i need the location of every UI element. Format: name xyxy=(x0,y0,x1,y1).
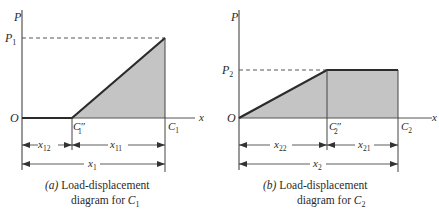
caption-a-line1: (a) Load-displacement xyxy=(45,179,150,192)
point-end-label-b: C2 xyxy=(401,120,412,135)
axis-x-label-b: x xyxy=(431,111,437,123)
load-label-a: P1 xyxy=(4,31,16,47)
point-mid-label-a: C″1 xyxy=(73,120,85,136)
origin-label-a: O xyxy=(10,111,19,125)
dim-total-label-b: x2 xyxy=(312,157,322,172)
dim-right-label-a: x11 xyxy=(109,138,122,153)
axis-y-label-b: P xyxy=(230,10,239,24)
point-mid-label-b: C″2 xyxy=(329,120,341,136)
origin-label-b: O xyxy=(227,111,236,125)
axis-x-label-a: x xyxy=(198,111,204,123)
axis-y-label-a: P xyxy=(13,10,22,24)
load-label-b: P2 xyxy=(221,63,233,79)
diagram-b: P P2 O x C″2 C2 x22 x21 x2 (b) Load-disp… xyxy=(221,10,437,209)
dim-right-label-b: x21 xyxy=(357,138,371,153)
caption-b-line1: (b) Load-displacement xyxy=(263,179,368,192)
dim-total-label-a: x1 xyxy=(87,157,97,172)
point-end-label-a: C1 xyxy=(168,120,179,135)
caption-b-line2: diagram for C2 xyxy=(297,194,366,209)
caption-a-line2: diagram for C1 xyxy=(71,194,140,209)
dim-left-label-b: x22 xyxy=(273,138,287,153)
diagram-a: P P1 O x C″1 C1 x12 x11 x1 (a) Load-disp… xyxy=(4,10,204,209)
work-area-b xyxy=(239,70,398,118)
load-displacement-figure: P P1 O x C″1 C1 x12 x11 x1 (a) Load-disp… xyxy=(0,0,439,212)
dim-left-label-a: x12 xyxy=(37,138,51,153)
